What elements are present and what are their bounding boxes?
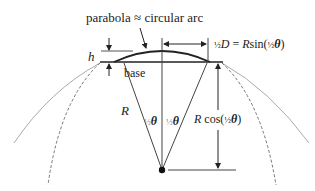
rcos-label: R cos(½θ) — [193, 112, 241, 126]
circle-arc-right-solid — [222, 63, 309, 143]
circle-arc-left-solid — [14, 63, 100, 143]
diagram-canvas: parabola ≈ circular arc h base ½D = Rsin… — [0, 0, 315, 191]
parabola-label: parabola ≈ circular arc — [86, 10, 203, 25]
parabola-pointer-arrow — [140, 28, 146, 48]
radius-label: R — [120, 103, 129, 118]
center-point — [159, 167, 165, 173]
circle-arc-left-dashed — [48, 63, 100, 185]
half-theta-right-label: ½θ — [166, 114, 180, 128]
half-theta-left-label: ½θ — [144, 114, 158, 128]
half-d-label: ½D = Rsin(½θ) — [214, 37, 285, 51]
h-label: h — [88, 49, 95, 64]
base-label: base — [124, 66, 145, 80]
